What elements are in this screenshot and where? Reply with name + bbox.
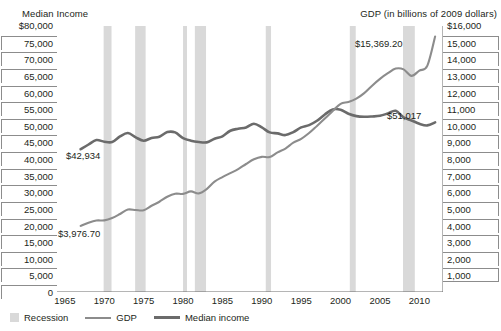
left-axis-tick: 0	[1, 285, 57, 299]
x-axis-tick-label: 1995	[291, 295, 312, 306]
x-axis-tick-label: 2000	[330, 295, 351, 306]
left-axis-tick: 10,000	[1, 252, 57, 266]
left-axis-tick: 50,000	[1, 119, 57, 133]
right-axis-tick: $16,000	[443, 19, 499, 33]
recession-band	[135, 26, 145, 292]
left-axis-tick: 40,000	[1, 152, 57, 166]
right-axis-tick: 1,000	[443, 268, 499, 282]
left-axis-tick: 60,000	[1, 86, 57, 100]
recession-band	[403, 26, 415, 292]
x-axis-tick-label: 1985	[212, 295, 233, 306]
right-axis-tick: 2,000	[443, 252, 499, 266]
left-axis-tick: 30,000	[1, 185, 57, 199]
x-axis-tick-label: 1975	[133, 295, 154, 306]
series-line-median-income	[81, 109, 435, 149]
left-axis-tick: 35,000	[1, 169, 57, 183]
plot-area	[57, 26, 443, 292]
right-axis-tick: 7,000	[443, 169, 499, 183]
x-axis-tick-label: 1990	[251, 295, 272, 306]
left-axis-tick-labels: $80,00075,00070,00065,00060,00055,00050,…	[1, 26, 57, 278]
right-axis-tick: 13,000	[443, 69, 499, 83]
x-axis-tick-label: 2005	[369, 295, 390, 306]
recession-band	[195, 26, 206, 292]
right-axis-tick: 4,000	[443, 219, 499, 233]
left-axis-tick: 15,000	[1, 235, 57, 249]
right-axis-tick: 5,000	[443, 202, 499, 216]
left-axis-title: Median Income	[22, 8, 88, 19]
gdp-line-swatch-icon	[85, 317, 111, 319]
left-axis-tick: 20,000	[1, 219, 57, 233]
x-axis-tick-labels: 1965197019751980198519901995200020052010	[57, 295, 443, 309]
right-axis-tick: 11,000	[443, 102, 499, 116]
chart-container: Median Income GDP (in billions of 2009 d…	[0, 0, 501, 331]
median-income-line-swatch-icon	[154, 316, 180, 319]
recession-swatch-icon	[10, 313, 19, 322]
right-axis-title: GDP (in billions of 2009 dollars)	[360, 8, 497, 19]
series-line-gdp	[81, 36, 435, 225]
left-axis-tick: 25,000	[1, 202, 57, 216]
left-axis-tick: 75,000	[1, 36, 57, 50]
x-axis-tick-label: 1980	[172, 295, 193, 306]
legend-label-median-income: Median income	[185, 312, 249, 323]
legend-item-median-income: Median income	[154, 312, 249, 323]
axis-lines	[57, 26, 443, 292]
left-axis-tick: 55,000	[1, 102, 57, 116]
annotation-median-start: $42,934	[66, 150, 100, 161]
right-axis-tick: 8,000	[443, 152, 499, 166]
legend-item-recession: Recession	[10, 312, 68, 323]
right-axis-tick: 15,000	[443, 36, 499, 50]
left-axis-tick: 5,000	[1, 268, 57, 282]
right-axis-tick: 12,000	[443, 86, 499, 100]
legend-label-gdp: GDP	[116, 312, 137, 323]
right-axis-tick: 6,000	[443, 185, 499, 199]
left-axis-tick: 45,000	[1, 135, 57, 149]
right-axis-tick: 9,000	[443, 135, 499, 149]
right-axis-tick: 3,000	[443, 235, 499, 249]
annotation-median-end: $51,017	[387, 110, 421, 121]
series-lines	[81, 36, 435, 225]
legend-item-gdp: GDP	[85, 312, 137, 323]
x-axis-tick-label: 2010	[409, 295, 430, 306]
right-axis-tick: 14,000	[443, 52, 499, 66]
recession-band	[266, 26, 271, 292]
x-axis-tick-label: 1970	[94, 295, 115, 306]
recession-band	[183, 26, 187, 292]
left-axis-tick: 65,000	[1, 69, 57, 83]
chart-legend: Recession GDP Median income	[10, 312, 249, 323]
left-axis-tick: $80,000	[1, 19, 57, 33]
annotation-gdp-start: $3,976.70	[58, 228, 100, 239]
legend-label-recession: Recession	[24, 312, 68, 323]
recession-band	[104, 26, 112, 292]
annotation-gdp-end: $15,369.20	[355, 38, 403, 49]
recession-band	[350, 26, 356, 292]
right-axis-tick-labels: $16,00015,00014,00013,00012,00011,00010,…	[443, 26, 499, 278]
left-axis-tick: 70,000	[1, 52, 57, 66]
right-axis-tick: 10,000	[443, 119, 499, 133]
plot-svg	[57, 26, 443, 292]
x-axis-tick-label: 1965	[54, 295, 75, 306]
recession-bands	[104, 26, 415, 292]
